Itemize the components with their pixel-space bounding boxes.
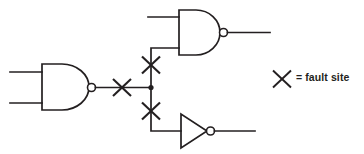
fanout-net: [96, 48, 182, 131]
top-nand-bubble-icon: [220, 29, 228, 37]
inverter-body: [181, 114, 207, 148]
inverter-bubble-icon: [207, 127, 215, 135]
fanout-junction-dot: [148, 85, 153, 90]
top-nand-body: [179, 10, 220, 55]
legend-fault-site-x-icon: [273, 71, 291, 88]
fanout-branch-down: [151, 88, 181, 132]
legend-label: = fault site: [296, 71, 349, 83]
left-nand-bubble-icon: [88, 84, 96, 92]
bottom-inverter-gate: [181, 114, 255, 148]
left-nand-body: [42, 64, 89, 110]
left-nand-gate: [10, 64, 96, 110]
logic-circuit-diagram: = fault site: [0, 0, 364, 154]
